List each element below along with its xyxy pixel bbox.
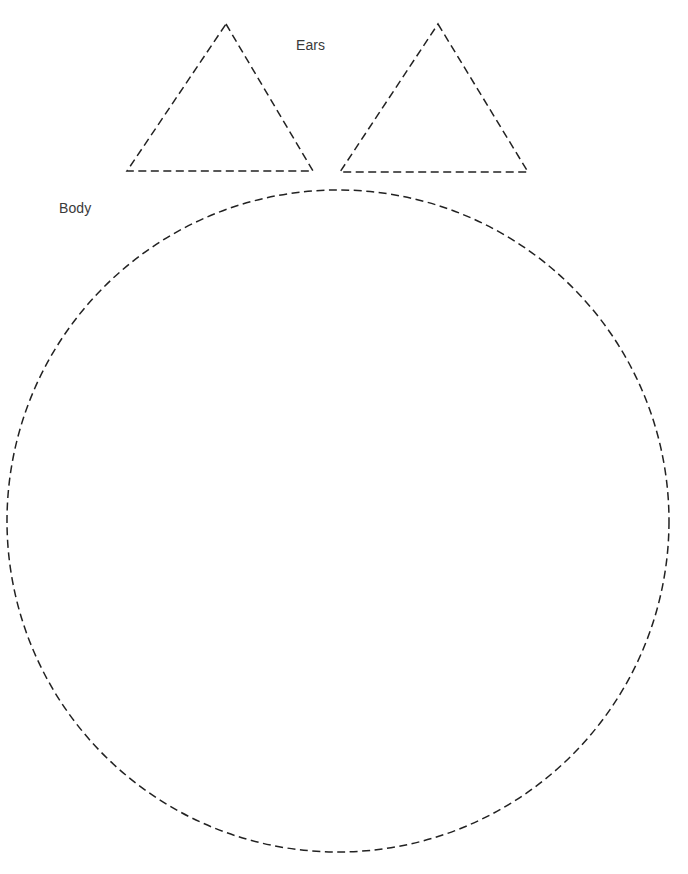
body-circle-outline [7, 190, 669, 852]
left-ear-triangle-outline [127, 24, 313, 171]
ears-label: Ears [296, 38, 325, 53]
template-canvas: Ears Body [0, 0, 688, 874]
body-label: Body [59, 201, 91, 216]
right-ear-triangle-outline [340, 24, 528, 172]
cut-out-template-drawing [0, 0, 688, 874]
